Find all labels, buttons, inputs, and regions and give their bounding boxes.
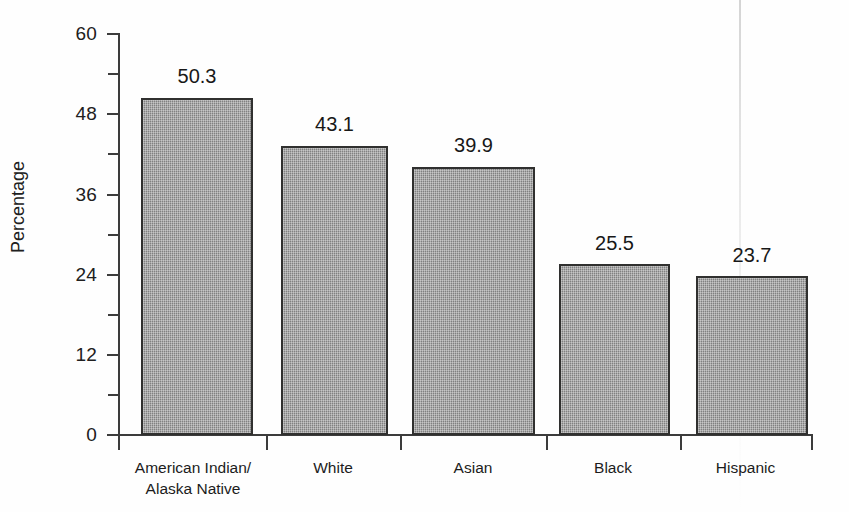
bar-white[interactable] bbox=[281, 146, 388, 435]
y-tick-0 bbox=[107, 434, 118, 436]
plot-area bbox=[118, 33, 812, 435]
y-tick-60 bbox=[107, 33, 118, 35]
bar-american-indian-alaska-native[interactable] bbox=[141, 98, 253, 435]
bar-black[interactable] bbox=[559, 264, 670, 435]
x-tick-end bbox=[811, 436, 813, 450]
bar-chart-figure: Percentage 60 48 36 24 12 0 50.3 43.1 39… bbox=[0, 0, 849, 512]
x-tick-start bbox=[118, 436, 120, 450]
y-minor-tick-18 bbox=[108, 314, 118, 316]
bar-value-black: 25.5 bbox=[559, 233, 670, 253]
y-minor-tick-30 bbox=[108, 234, 118, 236]
y-minor-tick-42 bbox=[108, 153, 118, 155]
x-tick-2 bbox=[400, 436, 402, 450]
y-tick-24 bbox=[107, 274, 118, 276]
bar-value-hispanic: 23.7 bbox=[696, 245, 808, 265]
bar-value-american-indian-alaska-native: 50.3 bbox=[141, 66, 253, 86]
y-minor-tick-6 bbox=[108, 394, 118, 396]
bar-value-white: 43.1 bbox=[281, 114, 388, 134]
y-tick-label-12: 12 bbox=[27, 345, 97, 364]
bar-asian[interactable] bbox=[412, 167, 535, 435]
x-label-black: Black bbox=[546, 457, 680, 478]
y-tick-label-48: 48 bbox=[27, 104, 97, 123]
x-label-hispanic: Hispanic bbox=[680, 457, 811, 478]
x-label-asian: Asian bbox=[400, 457, 546, 478]
x-label-american-indian-alaska-native: American Indian/ Alaska Native bbox=[118, 457, 268, 499]
x-tick-3 bbox=[546, 436, 548, 450]
x-label-white: White bbox=[266, 457, 400, 478]
y-tick-48 bbox=[107, 113, 118, 115]
y-minor-tick-54 bbox=[108, 73, 118, 75]
y-tick-label-24: 24 bbox=[27, 265, 97, 284]
y-tick-12 bbox=[107, 354, 118, 356]
x-tick-1 bbox=[266, 436, 268, 450]
y-axis-title: Percentage bbox=[9, 127, 27, 287]
y-tick-label-36: 36 bbox=[27, 185, 97, 204]
bar-value-asian: 39.9 bbox=[412, 135, 535, 155]
y-tick-36 bbox=[107, 194, 118, 196]
y-tick-label-0: 0 bbox=[27, 425, 97, 444]
bar-hispanic[interactable] bbox=[696, 276, 808, 435]
x-tick-4 bbox=[680, 436, 682, 450]
y-tick-label-60: 60 bbox=[27, 24, 97, 43]
